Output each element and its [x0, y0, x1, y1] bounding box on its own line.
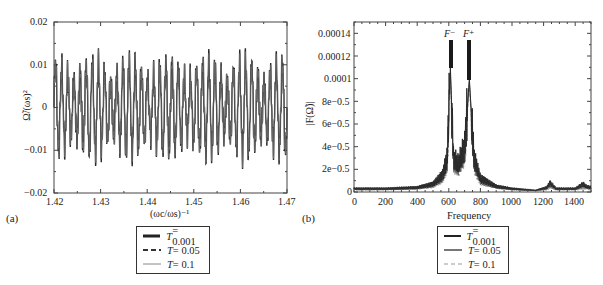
- x-tick-label: 0: [352, 196, 357, 207]
- x-tick-label: 1200: [533, 196, 553, 207]
- f-plus-marker: [467, 40, 471, 80]
- x-tick-label: 800: [473, 196, 488, 207]
- legend-item: T = 0.1: [444, 257, 502, 271]
- x-tick-label: 1000: [501, 196, 521, 207]
- panel-label-b: (b): [302, 212, 315, 224]
- x-axis-label: Frequency: [447, 210, 491, 221]
- x-tick-label: 600: [441, 196, 456, 207]
- gray-solid-line-icon: [444, 247, 462, 253]
- plot-area-b: [0, 0, 603, 285]
- x-tick-label: 400: [410, 196, 425, 207]
- legend-item: T = 0.001: [444, 229, 502, 243]
- legend-item: T = 0.05: [444, 243, 502, 257]
- dark-solid-line-icon: [444, 233, 461, 239]
- dashed-line-icon: [444, 261, 462, 267]
- x-tick-label: 200: [378, 196, 393, 207]
- annotation-f-minus: F⁻: [444, 28, 455, 39]
- f-minus-marker: [449, 40, 453, 68]
- legend-b: T = 0.001 T = 0.05 T = 0.1: [437, 226, 509, 274]
- annotation-f-plus: F⁺: [463, 28, 474, 39]
- x-tick-label: 1400: [564, 196, 584, 207]
